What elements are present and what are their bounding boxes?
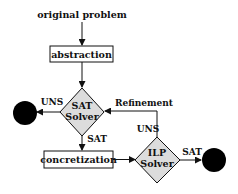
ilp-uns-label: UNS	[137, 124, 160, 134]
ilp-sat-label: SAT	[182, 147, 202, 157]
concretization-node[interactable]: concretization	[40, 151, 117, 168]
terminal-left-circle	[13, 101, 37, 125]
refinement-label: Refinement	[115, 98, 174, 108]
abstraction-node[interactable]: abstraction	[50, 46, 113, 62]
sat-uns-label: UNS	[41, 97, 64, 107]
ilp-solver-node[interactable]: ILP Solver	[135, 137, 180, 183]
flowchart-canvas: original problem abstraction SAT Solver …	[0, 0, 238, 194]
ilp-solver-label-line2: Solver	[140, 158, 174, 169]
terminal-right-circle	[202, 148, 226, 172]
concretization-label: concretization	[40, 154, 117, 165]
sat-sat-label: SAT	[87, 134, 107, 144]
original-problem-label: original problem	[37, 9, 127, 20]
sat-solver-label-line1: SAT	[72, 100, 93, 111]
abstraction-label: abstraction	[51, 49, 112, 60]
sat-solver-node[interactable]: SAT Solver	[60, 88, 104, 136]
sat-solver-label-line2: Solver	[65, 111, 99, 122]
ilp-solver-label-line1: ILP	[148, 147, 166, 158]
